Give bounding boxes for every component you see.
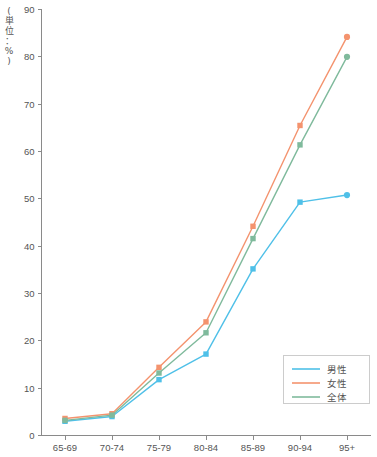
y-tick-label: 20 — [24, 335, 35, 346]
series-data-point — [297, 199, 302, 204]
y-tick-label: 70 — [24, 99, 35, 110]
x-tick-label: 85-89 — [241, 442, 265, 453]
x-tick-label: 90-94 — [288, 442, 312, 453]
y-tick-label: 30 — [24, 288, 35, 299]
line-chart: (単位：%) 0102030405060708090 65-6970-7475-… — [0, 0, 377, 457]
y-tick-label: 50 — [24, 193, 35, 204]
chart-legend[interactable]: 男性女性全体 — [284, 356, 370, 404]
series-data-point — [297, 123, 302, 128]
chart-canvas: (単位：%) 0102030405060708090 65-6970-7475-… — [0, 0, 377, 457]
y-tick-label: 0 — [29, 430, 34, 441]
y-tick-label: 10 — [24, 383, 35, 394]
x-tick-label: 75-79 — [147, 442, 171, 453]
legend-label[interactable]: 女性 — [327, 378, 347, 389]
series-data-point — [203, 351, 208, 356]
series-data-point — [203, 330, 208, 335]
series-data-point — [156, 370, 161, 375]
y-tick-label: 40 — [24, 241, 35, 252]
x-tick-label: 95+ — [339, 442, 356, 453]
y-axis-label: (単位：%) — [5, 6, 14, 66]
legend-label[interactable]: 男性 — [327, 364, 347, 375]
y-tick-label: 80 — [24, 51, 35, 62]
series-data-point — [203, 319, 208, 324]
x-axis-ticks: 65-6970-7475-7980-8485-8990-9495+ — [53, 436, 356, 453]
y-axis-label-text: (単位：%) — [5, 6, 14, 66]
series-data-point — [344, 192, 350, 198]
series-data-point — [156, 365, 161, 370]
legend-label[interactable]: 全体 — [327, 392, 347, 403]
series-data-point — [250, 236, 255, 241]
series-data-point — [62, 418, 67, 423]
series-data-point — [250, 224, 255, 229]
x-tick-label: 80-84 — [194, 442, 218, 453]
series-data-point — [250, 266, 255, 271]
x-tick-label: 65-69 — [53, 442, 77, 453]
series-data-point — [344, 54, 350, 60]
x-tick-label: 70-74 — [100, 442, 124, 453]
series-data-point — [156, 377, 161, 382]
y-tick-label: 90 — [24, 4, 35, 15]
y-axis-ticks: 0102030405060708090 — [24, 4, 42, 441]
y-tick-label: 60 — [24, 146, 35, 157]
series-data-point — [297, 142, 302, 147]
series-data-point — [344, 34, 350, 40]
series-data-point — [109, 412, 114, 417]
